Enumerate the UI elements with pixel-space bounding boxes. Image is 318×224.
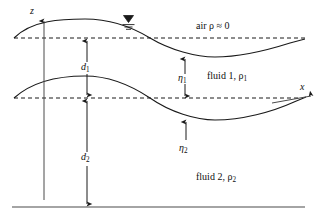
fluid1-region-label: fluid 1, ρ1 — [207, 71, 247, 83]
free-surface-triangle-icon — [123, 16, 135, 30]
d1-subscript: 1 — [86, 66, 90, 74]
fluid2-region-text: fluid 2, ρ — [196, 171, 232, 182]
air-region-text: air ρ ≈ 0 — [196, 20, 230, 31]
air-region-label: air ρ ≈ 0 — [196, 21, 230, 31]
fluid1-region-text: fluid 1, ρ — [207, 70, 243, 81]
wave-diagram-figure: z x air ρ ≈ 0 fluid 1, ρ1 fluid 2, ρ2 d1… — [0, 0, 318, 224]
d1-dimension-label: d1 — [81, 62, 90, 74]
eta2-label: η2 — [179, 143, 188, 155]
diagram-canvas — [0, 0, 318, 224]
eta1-subscript: 1 — [183, 77, 187, 85]
eta2-subscript: 2 — [184, 147, 188, 155]
eta1-label: η1 — [178, 73, 187, 85]
fluid1-region-subscript: 1 — [243, 75, 247, 83]
fluid2-region-subscript: 2 — [232, 176, 236, 184]
d2-dimension-label: d2 — [81, 152, 90, 164]
fluid2-region-label: fluid 2, ρ2 — [196, 172, 236, 184]
x-axis-label: x — [300, 82, 304, 92]
x-axis-line — [272, 96, 311, 103]
z-axis-label: z — [30, 6, 34, 16]
d2-subscript: 2 — [86, 156, 90, 164]
